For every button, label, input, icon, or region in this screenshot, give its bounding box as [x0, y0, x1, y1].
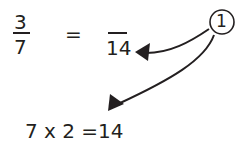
arrow-to-calculation-icon: [108, 35, 214, 111]
calculation-text: 7 x 2 =14: [25, 121, 124, 141]
step-marker-label: 1: [216, 13, 227, 30]
